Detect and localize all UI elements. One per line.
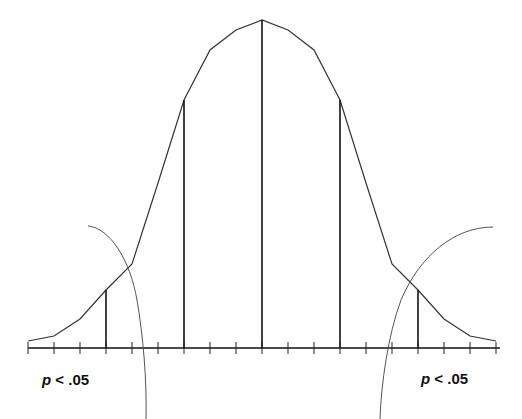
left-critical-arc — [88, 226, 146, 419]
p-symbol: p — [42, 371, 51, 388]
right-tail-threshold: < .05 — [430, 370, 468, 387]
left-tail-threshold: < .05 — [51, 371, 89, 388]
normal-distribution-diagram — [0, 0, 522, 419]
p-symbol: p — [421, 370, 430, 387]
sd-marker-lines — [106, 20, 418, 348]
right-tail-label: p < .05 — [421, 371, 468, 386]
right-critical-arc — [380, 227, 493, 419]
left-tail-label: p < .05 — [42, 372, 89, 387]
